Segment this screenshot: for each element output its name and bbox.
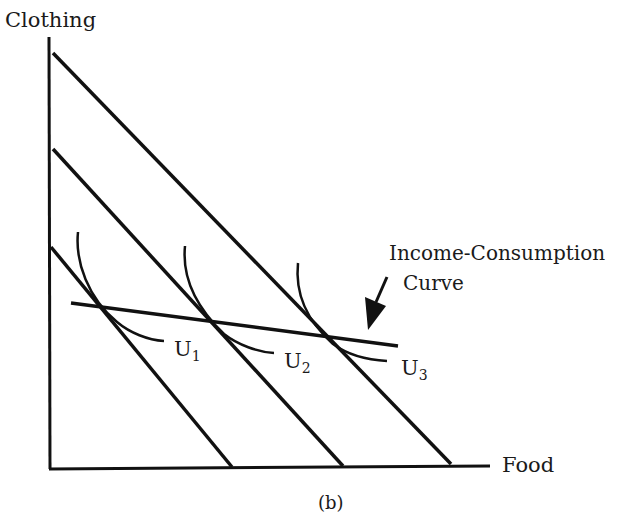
- u3-subscript: 3: [419, 367, 428, 383]
- u3-letter: U: [401, 356, 419, 380]
- annotation-line-2: Curve: [403, 273, 464, 293]
- y-axis: [49, 37, 50, 469]
- u1-letter: U: [174, 337, 192, 361]
- u2-label: U2: [284, 351, 311, 375]
- y-axis-label: Clothing: [5, 10, 96, 31]
- arrow-icon: [365, 277, 387, 330]
- u2-letter: U: [284, 349, 302, 373]
- u3-label: U3: [401, 358, 428, 382]
- x-axis-label: Food: [502, 455, 554, 476]
- x-axis: [49, 466, 490, 469]
- u1-label: U1: [174, 339, 201, 363]
- figure-caption: (b): [318, 494, 344, 512]
- u2-subscript: 2: [302, 360, 311, 376]
- indifference-curve-u2: [185, 246, 274, 353]
- annotation-line-1: Income-Consumption: [389, 243, 605, 263]
- budget-line-1: [51, 247, 232, 467]
- indifference-curve-u1: [78, 232, 164, 341]
- u1-subscript: 1: [192, 348, 201, 364]
